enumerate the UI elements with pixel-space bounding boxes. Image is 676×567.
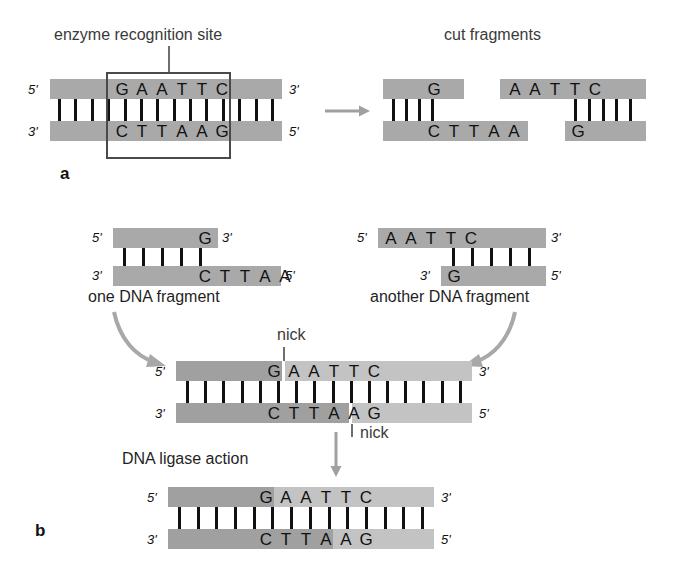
sealed-top-bases: GAATTC [256,487,376,507]
label-nick-top: nick [277,326,305,344]
fragment-two-top-right-prime: 3' [551,230,561,245]
nicked-top-left-prime: 5' [155,364,165,379]
nicked-top-right-prime: 3' [479,364,489,379]
leader-nick-bottom [351,424,353,437]
fragment-two-bottom-left-prime: 3' [420,268,430,283]
fragment-one-bottom-right-prime: 5' [285,268,295,283]
cut-right-hydrogen-bonds [574,99,632,121]
cut-right-bottom-bases: G [568,121,588,141]
duplex-bottom-right-prime: 5' [289,124,299,139]
figure-restriction-ligation: enzyme recognition site cut fragments GA… [0,0,676,567]
cut-left-top-bases: G [424,79,444,99]
fragment-two-bottom-right-prime: 5' [551,268,561,283]
fragment-two-top-left-prime: 5' [357,230,367,245]
nicked-hydrogen-bonds [186,381,462,403]
cut-left-hydrogen-bonds [392,99,434,121]
label-one-dna-fragment: one DNA fragment [88,288,220,306]
fragment-one-hydrogen-bonds [123,248,202,266]
label-nick-bottom: nick [360,424,388,442]
duplex-top-left-prime: 5' [28,82,38,97]
fragment-one-bottom-left-prime: 3' [92,268,102,283]
fragment-two-bottom-bases: G [444,266,464,286]
fragment-one-top-left-prime: 5' [92,230,102,245]
panel-label-b: b [35,521,45,541]
arrow-ligase [329,432,343,478]
sealed-bottom-left-prime: 3' [147,532,157,547]
duplex-top-right-prime: 3' [289,82,299,97]
fragment-one-top-bases: G [195,228,215,248]
fragment-two-top-bases: AATTC [381,228,481,248]
sealed-hydrogen-bonds [178,507,424,529]
nicked-bottom-bases: CTTAAG [264,403,384,423]
sealed-bottom-right-prime: 5' [441,532,451,547]
label-enzyme-recognition-site: enzyme recognition site [54,26,222,44]
cut-left-bottom-bases: CTTAA [424,121,524,141]
panel-label-a: a [60,164,69,184]
label-another-dna-fragment: another DNA fragment [370,288,529,306]
fragment-two-hydrogen-bonds [452,248,531,266]
fragment-one-bottom-bases: CTTAA [195,266,295,286]
nicked-bottom-right-prime: 5' [479,406,489,421]
sealed-bottom-bases: CTTAAG [256,529,376,549]
leader-recognition-site [168,46,170,72]
arrow-digest [325,104,371,118]
fragment-one-top-right-prime: 3' [222,230,232,245]
leader-nick-top [283,347,285,361]
sealed-top-left-prime: 5' [147,490,157,505]
duplex-bottom-left-prime: 3' [28,124,38,139]
recognition-site-box [106,72,231,159]
label-cut-fragments: cut fragments [444,26,541,44]
cut-right-top-bases: AATTC [505,79,605,99]
nicked-bottom-left-prime: 3' [155,406,165,421]
label-dna-ligase-action: DNA ligase action [122,450,248,468]
sealed-top-right-prime: 3' [441,490,451,505]
nicked-top-bases: GAATTC [264,361,384,381]
